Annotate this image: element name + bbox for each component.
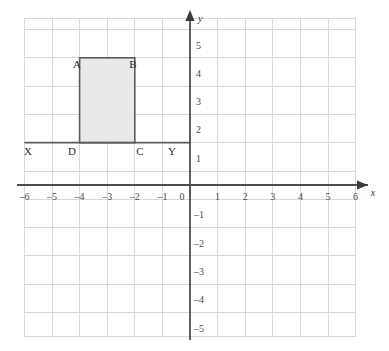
y-tick-label: –1 (193, 209, 204, 220)
y-tick-labels: 5 4 3 2 1 –1 –2 –3 –4 –5 (193, 40, 204, 334)
rectangle-ABCD (80, 58, 135, 143)
y-axis-label: y (197, 13, 203, 24)
x-axis-label: x (370, 187, 376, 198)
x-tick-label: –2 (129, 191, 140, 202)
x-tick-label: 5 (326, 191, 331, 202)
y-axis-arrow-icon (185, 10, 194, 21)
y-tick-label: 2 (196, 124, 201, 135)
x-tick-label: 4 (298, 191, 303, 202)
graph-svg: –6 –5 –4 –3 –2 –1 0 1 2 3 4 5 6 5 4 3 2 … (0, 0, 389, 351)
axes (17, 10, 368, 340)
vertex-label-B: B (129, 58, 136, 70)
x-tick-label: 6 (353, 191, 358, 202)
x-tick-label: 3 (270, 191, 275, 202)
x-tick-label: 1 (215, 191, 220, 202)
x-tick-label: –1 (156, 191, 167, 202)
x-axis-arrow-icon (357, 180, 368, 189)
y-tick-label: –5 (193, 323, 204, 334)
x-tick-label: –6 (18, 191, 29, 202)
x-tick-label: –4 (74, 191, 85, 202)
vertex-label-D: D (68, 145, 76, 157)
y-tick-label: –2 (193, 238, 204, 249)
y-tick-label: 1 (196, 153, 201, 164)
vertex-label-A: A (73, 58, 81, 70)
x-tick-labels: –6 –5 –4 –3 –2 –1 0 1 2 3 4 5 6 (18, 191, 358, 202)
x-tick-label: –5 (46, 191, 57, 202)
y-tick-label: 3 (196, 96, 201, 107)
y-tick-label: –3 (193, 266, 204, 277)
vertex-label-C: C (136, 145, 143, 157)
y-tick-label: 5 (196, 40, 201, 51)
rectangle-ABCD-shape (80, 58, 135, 143)
x-tick-label-origin: 0 (180, 191, 185, 202)
point-label-Y: Y (168, 145, 176, 157)
y-tick-label: –4 (193, 294, 204, 305)
x-tick-label: 2 (243, 191, 248, 202)
coordinate-grid-figure: –6 –5 –4 –3 –2 –1 0 1 2 3 4 5 6 5 4 3 2 … (0, 0, 389, 351)
point-label-X: X (24, 145, 32, 157)
x-tick-label: –3 (101, 191, 112, 202)
y-tick-label: 4 (196, 68, 201, 79)
